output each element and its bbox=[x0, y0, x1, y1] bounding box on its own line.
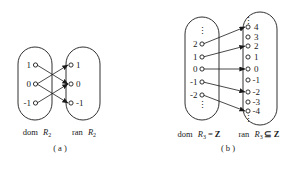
relation-diagram-figure: 1 0 -1 1 0 -1 dom R2 ran bbox=[0, 0, 299, 169]
panel-a-domain-caption-subscript: 2 bbox=[48, 132, 51, 138]
panel-a-domain-nodes: 1 0 -1 bbox=[24, 60, 38, 108]
node-label-ran-b-3: 1 bbox=[254, 52, 259, 62]
node-ran-a-0 bbox=[69, 63, 73, 67]
node-dom-a-2 bbox=[33, 101, 37, 105]
node-ran-b-2 bbox=[246, 44, 250, 48]
panel-b: ⋮ 2 1 0 -1 -2 ⋮ ⋮ 4 3 bbox=[177, 12, 279, 153]
panel-b-domain-bottom-ellipsis: ⋮ bbox=[198, 100, 207, 110]
panel-a-range-caption-prefix: ran bbox=[72, 127, 84, 137]
node-label-dom-b-2: 0 bbox=[193, 64, 198, 74]
node-label-dom-a-1: 0 bbox=[27, 79, 32, 89]
node-label-ran-b-5: -1 bbox=[253, 75, 261, 85]
node-ran-b-6 bbox=[246, 90, 250, 94]
node-label-ran-b-6: -2 bbox=[253, 87, 261, 97]
panel-a-label: ( a ) bbox=[53, 143, 67, 153]
node-label-dom-b-0: 2 bbox=[193, 39, 198, 49]
node-dom-a-0 bbox=[33, 63, 37, 67]
panel-b-label: ( b ) bbox=[221, 143, 235, 153]
node-label-ran-b-0: 4 bbox=[254, 22, 259, 32]
panel-a-domain-caption: dom R2 bbox=[23, 127, 51, 138]
node-label-ran-a-1: 0 bbox=[76, 79, 81, 89]
node-dom-b-2 bbox=[200, 67, 204, 71]
node-ran-a-1 bbox=[69, 82, 73, 86]
node-label-ran-a-0: 1 bbox=[76, 60, 81, 70]
node-label-dom-b-3: -1 bbox=[190, 77, 198, 87]
node-ran-b-4 bbox=[246, 67, 250, 71]
node-ran-a-2 bbox=[69, 101, 73, 105]
node-dom-a-1 bbox=[33, 82, 37, 86]
figure-svg: 1 0 -1 1 0 -1 dom R2 ran bbox=[0, 0, 299, 169]
panel-a-range-caption-subscript: 2 bbox=[93, 132, 96, 138]
node-label-ran-a-2: -1 bbox=[76, 98, 84, 108]
node-label-ran-b-4: 0 bbox=[254, 64, 259, 74]
node-label-dom-a-0: 1 bbox=[27, 60, 32, 70]
node-dom-b-4 bbox=[200, 93, 204, 97]
node-ran-b-8 bbox=[246, 109, 250, 113]
panel-a-range-nodes: 1 0 -1 bbox=[69, 60, 84, 108]
node-ran-b-0 bbox=[246, 25, 250, 29]
node-ran-b-5 bbox=[246, 78, 250, 82]
panel-b-domain-caption-suffix: = Z bbox=[208, 129, 221, 139]
panel-b-range-bottom-ellipsis: ⋮ bbox=[244, 114, 253, 124]
node-ran-b-3 bbox=[246, 55, 250, 59]
node-dom-b-1 bbox=[200, 55, 204, 59]
panel-b-range-caption-prefix: ran bbox=[239, 129, 251, 139]
edge-neg1-to-neg2 bbox=[203, 82, 245, 92]
panel-a: 1 0 -1 1 0 -1 dom R2 ran bbox=[18, 47, 100, 153]
node-dom-b-3 bbox=[200, 80, 204, 84]
panel-b-domain-caption-prefix: dom bbox=[177, 129, 193, 139]
edge-neg2-to-neg4 bbox=[203, 95, 245, 111]
panel-b-range-caption-suffix: ⊆ Z bbox=[264, 129, 280, 139]
panel-b-domain-nodes: 2 1 0 -1 -2 bbox=[190, 39, 204, 100]
panel-b-range-nodes: 4 3 2 1 0 -1 -2 -3 -4 bbox=[246, 22, 261, 116]
node-label-ran-b-2: 2 bbox=[254, 41, 259, 51]
edge-1-to-2 bbox=[203, 46, 245, 57]
panel-b-domain-caption-subscript: 3 bbox=[203, 134, 206, 140]
node-ran-b-7 bbox=[246, 100, 250, 104]
edge-2-to-4 bbox=[203, 27, 245, 44]
node-label-dom-b-4: -2 bbox=[190, 90, 198, 100]
node-ran-b-1 bbox=[246, 35, 250, 39]
panel-b-range-caption: ran R3⊆ Z bbox=[239, 129, 280, 140]
panel-a-range-caption: ran R2 bbox=[72, 127, 96, 138]
panel-b-domain-top-ellipsis: ⋮ bbox=[198, 26, 207, 36]
panel-b-domain-caption: dom R3= Z bbox=[177, 129, 220, 140]
node-dom-b-0 bbox=[200, 42, 204, 46]
node-label-dom-b-1: 1 bbox=[193, 52, 198, 62]
node-label-ran-b-8: -4 bbox=[253, 106, 261, 116]
panel-a-edges bbox=[37, 65, 68, 103]
panel-b-edges bbox=[203, 27, 245, 111]
panel-b-range-caption-subscript: 3 bbox=[260, 134, 263, 140]
panel-a-domain-caption-prefix: dom bbox=[23, 127, 39, 137]
node-label-dom-a-2: -1 bbox=[24, 98, 32, 108]
